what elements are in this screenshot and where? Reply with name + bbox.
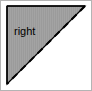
- figure-stage: [1, 1, 91, 90]
- diagram-canvas: right: [0, 0, 92, 91]
- triangle-label: right: [14, 25, 35, 37]
- right-triangle-figure: [1, 1, 91, 90]
